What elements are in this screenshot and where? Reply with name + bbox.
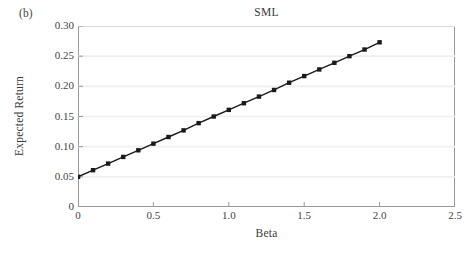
x-tick-label: 2.0 <box>360 209 400 221</box>
x-axis-tick-labels: 00.51.01.52.02.5 <box>0 209 473 227</box>
chart-title: SML <box>78 6 455 18</box>
data-point-marker <box>181 128 185 132</box>
x-tick-label: 0.5 <box>133 209 173 221</box>
x-tick-label: 1.5 <box>284 209 324 221</box>
data-point-marker <box>287 81 291 85</box>
x-tick-label: 2.5 <box>435 209 473 221</box>
data-point-marker <box>151 141 155 145</box>
y-tick-label: 0.10 <box>42 141 74 152</box>
data-point-marker <box>272 88 276 92</box>
data-point-marker <box>136 148 140 152</box>
data-point-marker <box>377 40 381 44</box>
plot-area <box>78 26 455 207</box>
data-point-marker <box>242 101 246 105</box>
data-point-marker <box>362 47 366 51</box>
series-sml <box>78 40 382 179</box>
gridlines <box>78 26 455 177</box>
data-point-marker <box>302 74 306 78</box>
data-point-marker <box>347 54 351 58</box>
y-tick-label: 0.05 <box>42 171 74 182</box>
y-axis-title: Expected Return <box>13 61 25 171</box>
data-point-marker <box>332 61 336 65</box>
figure-panel: (b) SML 00.050.100.150.200.250.30 00.51.… <box>0 0 473 253</box>
data-point-marker <box>317 67 321 71</box>
data-point-marker <box>78 175 80 179</box>
data-point-marker <box>121 155 125 159</box>
data-point-marker <box>196 121 200 125</box>
y-tick-label: 0.30 <box>42 20 74 31</box>
data-point-marker <box>257 94 261 98</box>
data-point-marker <box>212 114 216 118</box>
y-tick-label: 0.20 <box>42 80 74 91</box>
x-axis-title: Beta <box>78 227 455 239</box>
y-tick-label: 0.25 <box>42 50 74 61</box>
data-point-marker <box>91 168 95 172</box>
x-tick-label: 0 <box>58 209 98 221</box>
data-point-marker <box>166 135 170 139</box>
y-tick-label: 0.15 <box>42 111 74 122</box>
data-point-marker <box>227 108 231 112</box>
panel-label: (b) <box>19 7 33 19</box>
x-tick-label: 1.0 <box>209 209 249 221</box>
data-point-marker <box>106 161 110 165</box>
